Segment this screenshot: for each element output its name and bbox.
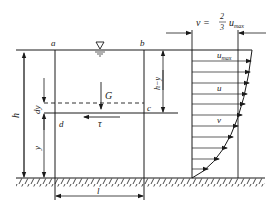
shear-stress-label: τ	[98, 118, 102, 129]
point-b-label: b	[140, 38, 145, 48]
channel-bed-hatch	[16, 179, 265, 187]
u-max-label: umax	[217, 50, 232, 61]
mean-velocity-equation: v = 2 3 umax	[196, 12, 244, 32]
gravity-label: G	[105, 90, 112, 101]
svg-text:3: 3	[219, 23, 224, 32]
point-d-label: d	[59, 119, 64, 129]
svg-text:2: 2	[220, 12, 224, 21]
depth-label: h	[10, 113, 21, 118]
depth-minus-y-label: h−y	[153, 77, 162, 90]
diagram-canvas: G τ a b c d h dy y h−y l	[0, 0, 278, 216]
height-y-label: y	[32, 146, 42, 151]
point-c-label: c	[147, 103, 151, 113]
velocity-vectors	[192, 61, 251, 169]
flow-diagram: G τ a b c d h dy y h−y l	[0, 0, 278, 216]
svg-text:umax: umax	[229, 17, 244, 29]
length-label: l	[97, 186, 100, 196]
free-surface-symbol-icon	[95, 42, 105, 56]
point-a-label: a	[51, 38, 56, 48]
u-label: u	[217, 83, 222, 93]
svg-text:v =: v =	[196, 17, 210, 28]
v-label: v	[217, 115, 221, 125]
layer-thickness-label: dy	[32, 106, 42, 115]
